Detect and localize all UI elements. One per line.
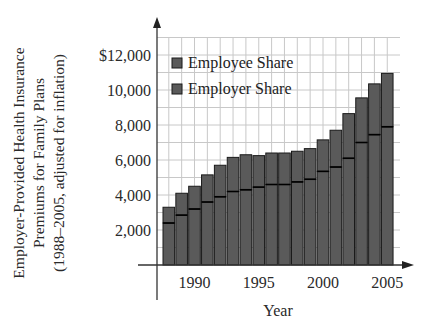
y-tick-label: 8,000	[115, 117, 151, 134]
bar-segment-employee	[292, 151, 304, 182]
bar-segment-employee	[343, 114, 355, 159]
bar-segment-employee	[253, 156, 265, 188]
y-tick-labels: 2,0004,0006,0008,00010,000$12,000	[99, 47, 151, 239]
x-axis-arrow-icon	[402, 261, 414, 269]
y-tick-label: 2,000	[115, 222, 151, 239]
bar-1990	[189, 186, 201, 265]
bar-segment-employer	[343, 158, 355, 265]
bar-2005	[381, 73, 393, 265]
bar-segment-employer	[369, 135, 381, 265]
bar-1992	[214, 165, 226, 265]
bar-1991	[202, 175, 214, 265]
bar-2001	[330, 130, 342, 265]
x-tick-label: 1990	[179, 274, 211, 291]
bar-segment-employer	[304, 179, 316, 265]
x-tick-label: 2000	[307, 274, 339, 291]
bar-1989	[176, 193, 188, 265]
legend-label: Employee Share	[188, 54, 293, 72]
bar-segment-employer	[214, 197, 226, 265]
bar-1995	[253, 156, 265, 265]
chart-container: Employer-Provided Health Insurance Premi…	[0, 0, 427, 325]
bar-segment-employee	[317, 140, 329, 172]
bar-segment-employer	[381, 127, 393, 265]
bar-segment-employee	[304, 149, 316, 180]
bar-segment-employer	[163, 223, 175, 265]
bar-segment-employee	[381, 73, 393, 126]
bar-2004	[369, 84, 381, 265]
bar-segment-employee	[214, 165, 226, 197]
bar-2002	[343, 114, 355, 265]
bar-segment-employer	[176, 215, 188, 265]
bar-1996	[266, 153, 278, 265]
bar-series	[163, 73, 393, 265]
bar-1997	[279, 153, 291, 265]
bar-segment-employee	[279, 153, 291, 185]
bar-segment-employee	[189, 186, 201, 209]
bar-segment-employer	[317, 171, 329, 265]
x-tick-labels: 1990199520002005	[179, 274, 404, 291]
x-tick-label: 1995	[243, 274, 275, 291]
bar-segment-employer	[279, 185, 291, 266]
legend-swatch	[172, 58, 182, 68]
bar-1999	[304, 149, 316, 265]
y-tick-label: 4,000	[115, 187, 151, 204]
bar-1993	[227, 157, 239, 265]
bar-segment-employer	[253, 187, 265, 265]
bar-segment-employee	[176, 193, 188, 215]
y-tick-label: $12,000	[99, 47, 151, 64]
x-axis-title: Year	[263, 302, 293, 319]
x-tick-label: 2005	[371, 274, 403, 291]
legend-item: Employer Share	[172, 80, 292, 98]
bar-segment-employer	[330, 167, 342, 265]
y-tick-label: 6,000	[115, 152, 151, 169]
bar-segment-employer	[240, 190, 252, 265]
bar-1988	[163, 207, 175, 265]
bar-segment-employee	[240, 155, 252, 190]
bar-2000	[317, 140, 329, 265]
legend-label: Employer Share	[188, 80, 292, 98]
bar-segment-employee	[266, 153, 278, 185]
y-axis-arrow-icon	[153, 17, 161, 28]
bar-segment-employee	[163, 207, 175, 223]
bar-2003	[356, 98, 368, 265]
bar-1998	[292, 151, 304, 265]
bar-segment-employee	[330, 130, 342, 167]
bar-segment-employer	[202, 202, 214, 265]
bar-1994	[240, 155, 252, 265]
bar-segment-employee	[356, 98, 368, 143]
bar-segment-employer	[356, 143, 368, 266]
legend-item: Employee Share	[172, 54, 293, 72]
plot-area: 2,0004,0006,0008,00010,000$12,000 199019…	[0, 0, 427, 325]
bar-segment-employer	[292, 182, 304, 265]
legend-swatch	[172, 84, 182, 94]
bar-segment-employer	[266, 185, 278, 266]
bar-segment-employee	[369, 84, 381, 135]
bar-segment-employee	[202, 175, 214, 202]
y-tick-label: 10,000	[107, 82, 151, 99]
bar-segment-employer	[189, 209, 201, 265]
bar-segment-employer	[227, 192, 239, 266]
bar-segment-employee	[227, 157, 239, 191]
